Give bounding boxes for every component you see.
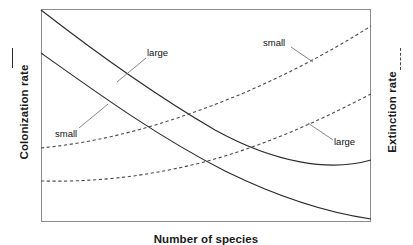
y-axis-right-title: Extinction rate bbox=[386, 42, 398, 182]
legend-solid-line-sample bbox=[12, 48, 13, 68]
island-biogeography-figure: Colonization rate Extinction rate Number… bbox=[0, 0, 413, 245]
y-axis-left-title: Colonization rate bbox=[18, 42, 30, 182]
x-axis-title: Number of species bbox=[41, 233, 371, 245]
curve-label-large-extinction: large bbox=[334, 136, 355, 147]
plot-frame bbox=[42, 10, 371, 222]
plot-area-svg bbox=[0, 0, 413, 245]
curve-label-small-extinction: small bbox=[263, 37, 285, 48]
curve-label-small-colonization: small bbox=[55, 128, 77, 139]
curve-label-large-colonization: large bbox=[147, 47, 168, 58]
legend-dashed-line-sample bbox=[400, 48, 401, 70]
